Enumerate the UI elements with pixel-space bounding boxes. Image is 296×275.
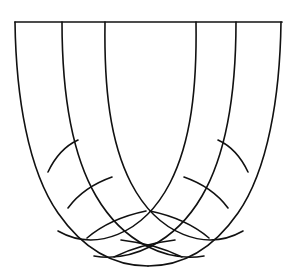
figure-background	[0, 0, 296, 275]
figure-root	[0, 0, 296, 275]
fan-vault-tracery-figure	[0, 0, 296, 275]
